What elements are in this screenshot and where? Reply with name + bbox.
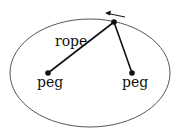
peg-left-label: peg (37, 74, 63, 90)
rope-segment-right (114, 22, 132, 73)
peg-right-label: peg (122, 74, 148, 90)
rope-label: rope (55, 33, 87, 49)
diagram-canvas: rope peg peg (0, 0, 177, 134)
direction-arrow-icon (105, 11, 125, 18)
pencil-point-dot (111, 19, 117, 25)
ellipse-curve (10, 19, 170, 127)
ellipse-rope-peg-diagram: rope peg peg (0, 0, 177, 134)
